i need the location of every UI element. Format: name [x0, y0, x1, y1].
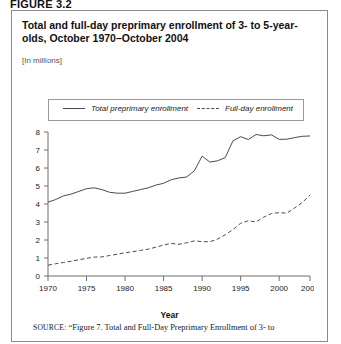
legend-label-fullday: Full-day enrollment: [225, 104, 293, 113]
svg-text:1990: 1990: [193, 284, 211, 293]
svg-text:8: 8: [36, 128, 41, 137]
svg-text:2000: 2000: [270, 284, 288, 293]
figure-label: FIGURE 3.2: [10, 0, 72, 10]
source-kicker: SOURCE:: [33, 323, 66, 332]
series-line-total-preprimary: [48, 135, 310, 203]
y-axis-ticks: 012345678: [36, 128, 48, 281]
source-text: “Figure 7. Total and Full-Day Preprimary…: [69, 323, 275, 332]
chart-legend: Total preprimary enrollment Full-day enr…: [48, 99, 304, 121]
svg-text:0: 0: [36, 272, 41, 281]
svg-text:5: 5: [36, 182, 41, 191]
legend-item-full-day-enrollment: Full-day enrollment: [197, 104, 293, 113]
chart-units-note: [In millions]: [22, 56, 62, 65]
legend-label-total: Total preprimary enrollment: [91, 104, 188, 113]
svg-text:1985: 1985: [155, 284, 173, 293]
x-axis-title: Year: [0, 310, 339, 320]
svg-text:1970: 1970: [39, 284, 57, 293]
svg-text:1: 1: [36, 254, 41, 263]
source-note: SOURCE: “Figure 7. Total and Full-Day Pr…: [33, 323, 309, 334]
svg-text:7: 7: [36, 146, 41, 155]
svg-text:1995: 1995: [232, 284, 250, 293]
chart-title: Total and full-day preprimary enrollment…: [22, 19, 314, 45]
series-line-full-day: [48, 195, 310, 265]
svg-text:3: 3: [36, 218, 41, 227]
data-series-group: [48, 135, 310, 266]
svg-text:6: 6: [36, 164, 41, 173]
svg-text:1975: 1975: [78, 284, 96, 293]
plot-area: 012345678 197019751980198519901995200020…: [22, 126, 314, 298]
legend-line-solid-icon: [63, 108, 85, 109]
svg-text:2: 2: [36, 236, 41, 245]
svg-text:1980: 1980: [116, 284, 134, 293]
line-chart-svg: 012345678 197019751980198519901995200020…: [22, 126, 314, 298]
legend-line-dashed-icon: [197, 108, 219, 109]
legend-item-total-preprimary-enrollment: Total preprimary enrollment: [63, 104, 188, 113]
svg-text:2004: 2004: [301, 284, 314, 293]
svg-text:4: 4: [36, 200, 41, 209]
x-axis-ticks: 19701975198019851990199520002004: [39, 276, 314, 293]
